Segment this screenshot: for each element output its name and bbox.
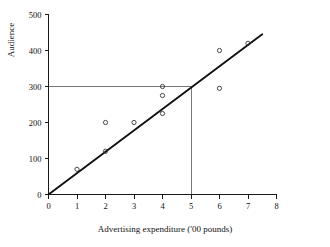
data-point-marker bbox=[132, 120, 136, 124]
data-point-marker bbox=[217, 86, 221, 90]
x-tick-label: 2 bbox=[103, 202, 107, 211]
scatter-chart: 0100200300400500 012345678 Advertising e… bbox=[0, 0, 330, 247]
x-tick-label: 3 bbox=[132, 202, 136, 211]
data-point-marker bbox=[160, 111, 164, 115]
data-points bbox=[75, 41, 250, 171]
y-tick-label: 100 bbox=[10, 154, 42, 163]
data-point-marker bbox=[160, 93, 164, 97]
y-axis-title: Audience bbox=[6, 5, 16, 75]
y-tick-label: 200 bbox=[10, 118, 42, 127]
x-tick-label: 0 bbox=[46, 202, 50, 211]
x-tick-label: 4 bbox=[160, 202, 164, 211]
x-tick-label: 5 bbox=[189, 202, 193, 211]
data-point-marker bbox=[103, 120, 107, 124]
x-tick-label: 1 bbox=[75, 202, 79, 211]
x-axis-title: Advertising expenditure ('00 pounds) bbox=[0, 224, 330, 234]
x-tick-label: 6 bbox=[217, 202, 221, 211]
data-point-marker bbox=[75, 167, 79, 171]
y-tick-label: 0 bbox=[10, 190, 42, 199]
y-tick-label: 300 bbox=[10, 82, 42, 91]
regression-fit-line bbox=[49, 34, 263, 194]
x-tick-label: 7 bbox=[246, 202, 250, 211]
x-tick-label: 8 bbox=[274, 202, 278, 211]
data-point-marker bbox=[217, 48, 221, 52]
x-axis-ticks bbox=[49, 195, 277, 199]
